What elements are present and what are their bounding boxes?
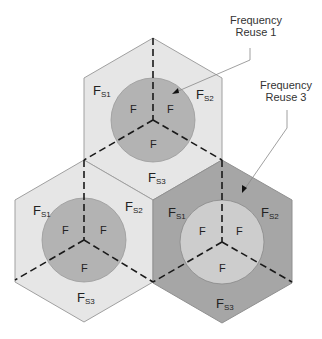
svg-text:F: F (236, 225, 243, 237)
callout-frequency-reuse-3: Frequency Reuse 3 (254, 79, 318, 103)
svg-text:F: F (130, 103, 137, 115)
svg-text:F: F (62, 224, 69, 236)
callout-reuse3-line2: Reuse 3 (254, 91, 318, 103)
frequency-reuse-diagram: FS1 FS2 FS3 F F F FS1 FS2 FS3 F F F FS1 … (0, 0, 322, 339)
svg-text:F: F (167, 103, 174, 115)
callout-reuse3-line1: Frequency (254, 79, 318, 91)
callout-reuse1-line2: Reuse 1 (226, 26, 286, 38)
callout-frequency-reuse-1: Frequency Reuse 1 (226, 14, 286, 38)
callout-reuse1-line1: Frequency (226, 14, 286, 26)
svg-text:F: F (150, 138, 157, 150)
svg-text:F: F (199, 225, 206, 237)
svg-text:F: F (81, 262, 88, 274)
svg-text:F: F (100, 224, 107, 236)
svg-text:F: F (219, 262, 226, 274)
